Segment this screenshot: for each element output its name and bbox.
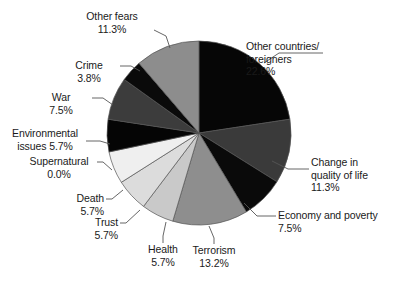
leader-line-trust [120,210,140,223]
pie-label-crime: Crime 3.8% [60,59,118,84]
pie-label-environmental-issues: Environmental issues 5.7% [4,127,86,152]
pie-label-death: Death 5.7% [38,192,104,217]
leader-line-health [163,222,166,243]
leader-line-terrorism [209,226,214,244]
pie-label-other-fears: Other fears 11.3% [72,10,152,35]
pie-label-health: Health 5.7% [131,243,195,268]
leader-line-death [106,190,123,199]
pie-label-economy-and-poverty: Economy and poverty 7.5% [278,209,397,234]
leader-line-supernatural [97,162,112,170]
leader-line-other-fears [154,30,170,48]
pie-label-war: War 7.5% [32,91,90,116]
pie-label-change-in-quality-of-life: Change in quality of life 11.3% [311,156,397,194]
pie-label-trust: Trust 5.7% [52,216,118,241]
pie-label-supernatural: Supernatural 0.0% [22,155,96,180]
pie-chart: Other countries/ foreigners 22.6% Change… [0,0,397,282]
leader-line-war [92,98,113,105]
leader-line-environmental-issues [86,141,110,144]
pie-label-other-countries-foreigners: Other countries/ foreigners 22.6% [246,40,396,78]
